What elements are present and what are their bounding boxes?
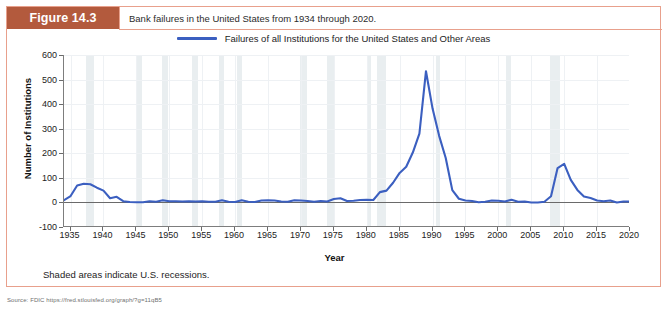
series-line-1 (64, 71, 629, 202)
y-tick-label: 500 (11, 75, 57, 85)
x-tick-mark (300, 227, 301, 231)
x-tick-label: 1975 (323, 230, 343, 240)
legend-label-series-1: Failures of all Institutions for the Uni… (225, 33, 491, 44)
x-tick-label: 2010 (553, 230, 573, 240)
figure-caption: Bank failures in the United States from … (119, 7, 660, 29)
x-tick-mark (563, 227, 564, 231)
x-tick-label: 1940 (92, 230, 112, 240)
figure-root: Figure 14.3 Bank failures in the United … (0, 0, 672, 309)
x-tick-label: 1990 (422, 230, 442, 240)
x-tick-label: 1965 (257, 230, 277, 240)
y-tick-mark (59, 80, 63, 81)
x-tick-mark (432, 227, 433, 231)
x-tick-label: 1935 (60, 230, 80, 240)
figure-footnote: Shaded areas indicate U.S. recessions. (43, 269, 209, 280)
figure-container: Figure 14.3 Bank failures in the United … (6, 6, 661, 287)
x-tick-mark (366, 227, 367, 231)
x-tick-label: 1955 (191, 230, 211, 240)
x-tick-label: 1980 (356, 230, 376, 240)
y-tick-label: 600 (11, 50, 57, 60)
x-tick-label: 2015 (586, 230, 606, 240)
x-tick-mark (464, 227, 465, 231)
x-tick-label: 2020 (619, 230, 639, 240)
y-tick-label: -100 (11, 222, 57, 232)
legend-swatch-series-1 (177, 37, 217, 40)
plot-region (63, 55, 629, 227)
x-tick-mark (629, 227, 630, 231)
x-tick-mark (497, 227, 498, 231)
y-tick-label: 100 (11, 173, 57, 183)
x-tick-mark (596, 227, 597, 231)
header-divider (119, 29, 662, 30)
y-tick-mark (59, 227, 63, 228)
x-tick-label: 2000 (487, 230, 507, 240)
x-tick-mark (102, 227, 103, 231)
x-tick-mark (70, 227, 71, 231)
y-tick-mark (59, 178, 63, 179)
series-svg (64, 55, 629, 227)
y-tick-label: 200 (11, 148, 57, 158)
x-tick-label: 1985 (389, 230, 409, 240)
x-tick-label: 1970 (290, 230, 310, 240)
y-tick-label: 0 (11, 197, 57, 207)
y-tick-mark (59, 202, 63, 203)
figure-header: Figure 14.3 Bank failures in the United … (7, 7, 660, 29)
y-tick-label: 400 (11, 99, 57, 109)
x-axis-title: Year (7, 252, 662, 263)
y-tick-mark (59, 55, 63, 56)
x-tick-label: 1945 (125, 230, 145, 240)
x-tick-mark (168, 227, 169, 231)
y-tick-mark (59, 153, 63, 154)
x-tick-label: 2005 (520, 230, 540, 240)
y-tick-mark (59, 129, 63, 130)
x-tick-mark (399, 227, 400, 231)
y-tick-label: 300 (11, 124, 57, 134)
figure-number-tag: Figure 14.3 (7, 7, 119, 29)
x-tick-mark (234, 227, 235, 231)
x-tick-mark (530, 227, 531, 231)
x-tick-label: 1960 (224, 230, 244, 240)
x-tick-mark (333, 227, 334, 231)
x-tick-mark (201, 227, 202, 231)
x-tick-label: 1950 (158, 230, 178, 240)
figure-source: Source: FDIC https://fred.stlouisfed.org… (7, 297, 162, 303)
chart-area: Number of Institutions 60050040030020010… (7, 51, 662, 263)
x-tick-label: 1995 (454, 230, 474, 240)
x-tick-mark (267, 227, 268, 231)
y-tick-mark (59, 104, 63, 105)
chart-legend: Failures of all Institutions for the Uni… (7, 33, 660, 44)
x-tick-mark (135, 227, 136, 231)
